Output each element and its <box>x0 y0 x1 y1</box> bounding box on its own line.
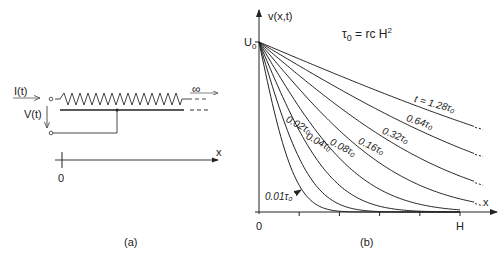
panel-a-origin-label: 0 <box>58 172 64 184</box>
curve-continuation <box>475 154 483 156</box>
x-end-label: H <box>456 220 464 232</box>
label-pointer-icon <box>296 190 301 193</box>
panel-a-transmission-line: I(t) V(t) ∞ x 0 (a) <box>13 82 222 248</box>
x-axis-ticks <box>299 212 460 216</box>
x-axis-label: x <box>483 196 489 208</box>
terminal-wire <box>53 110 117 133</box>
curve-label: 0.04τ₀ <box>304 130 333 153</box>
figure: I(t) V(t) ∞ x 0 (a) v(x,t) x <box>0 0 504 258</box>
curve-label: 0.64τ₀ <box>405 112 434 131</box>
panel-b-caption: (b) <box>360 236 373 248</box>
voltage-label: V(t) <box>24 108 42 120</box>
formula-label: τ0 = rc H2 <box>342 26 392 43</box>
current-label: I(t) <box>14 85 27 97</box>
curve-label: 0.08τ₀ <box>328 136 357 158</box>
distributed-resistor <box>55 93 188 105</box>
bottom-terminal <box>49 131 53 135</box>
curve-continuation <box>475 127 483 129</box>
curve-0.32τ₀ <box>259 42 474 181</box>
panel-a-caption: (a) <box>124 236 137 248</box>
curve-label: 0.16τ₀ <box>357 135 387 157</box>
curve-continuation <box>475 183 483 186</box>
panel-a-axis-label: x <box>216 146 222 158</box>
curve-label: t = 1.28τ₀ <box>413 93 456 114</box>
junction-dot <box>116 109 119 112</box>
curve-label: 0.32τ₀ <box>381 125 411 145</box>
infinity-label: ∞ <box>192 82 201 96</box>
curve-label: 0.01τ₀ <box>265 191 292 202</box>
u0-label: U0 <box>244 36 257 51</box>
panel-b-voltage-plot: v(x,t) x U0 0 H τ0 = rc H2 0.01τ₀0.02τ₀0… <box>244 10 497 248</box>
curve-continuation <box>475 204 483 207</box>
y-axis-label: v(x,t) <box>268 10 292 22</box>
top-terminal <box>49 97 53 101</box>
x-origin-label: 0 <box>256 220 262 232</box>
